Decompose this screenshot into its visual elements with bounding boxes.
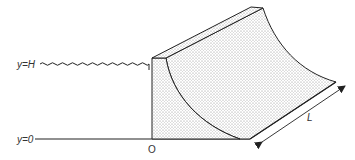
dam-diagram: y=H y=0 O L bbox=[0, 0, 355, 160]
water-surface bbox=[40, 63, 149, 70]
label-length: L bbox=[307, 112, 313, 123]
label-origin: O bbox=[148, 144, 156, 155]
label-water-level: y=H bbox=[16, 59, 36, 70]
label-ground-level: y=0 bbox=[16, 134, 34, 145]
